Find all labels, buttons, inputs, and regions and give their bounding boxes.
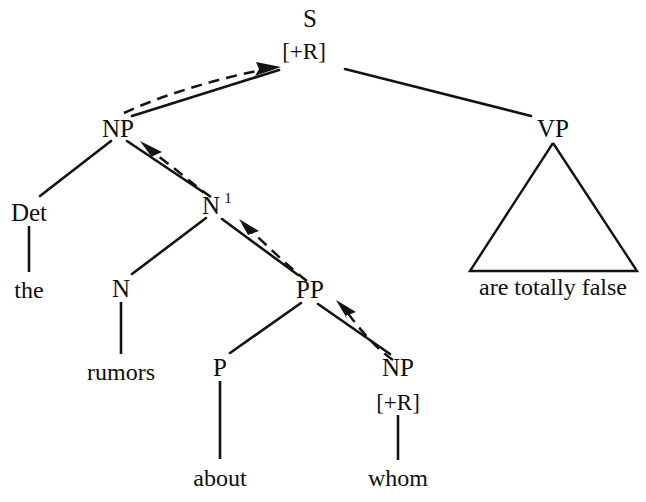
vp-triangle bbox=[470, 143, 637, 271]
node-feature-s: [+R] bbox=[282, 39, 326, 64]
node-label-np-object: NP bbox=[382, 354, 414, 381]
terminal-vp-phrase: are totally false bbox=[479, 274, 627, 300]
syntax-tree-diagram: S [+R] NP VP Det N 1 N PP P NP [+R] the … bbox=[0, 0, 646, 502]
node-label-np-subject: NP bbox=[102, 115, 134, 142]
terminal-the: the bbox=[14, 277, 43, 303]
branch-np-subject-to-n-bar bbox=[127, 141, 203, 192]
tree-canvas: S [+R] NP VP Det N 1 N PP P NP [+R] the … bbox=[0, 0, 646, 502]
node-label-det: Det bbox=[11, 199, 47, 226]
node-label-n: N bbox=[112, 275, 130, 302]
node-feature-np-object: [+R] bbox=[376, 390, 420, 415]
branch-pp-to-p bbox=[230, 303, 301, 353]
node-label-s: S bbox=[303, 5, 317, 32]
node-labels: S [+R] NP VP Det N 1 N PP P NP [+R] bbox=[11, 5, 569, 415]
movement-arrow-n-bar-to-np-subject bbox=[140, 141, 211, 197]
branch-s-to-vp bbox=[345, 69, 531, 116]
movement-arrow-np-subject-to-s bbox=[124, 62, 281, 113]
node-label-p: P bbox=[213, 354, 227, 381]
branch-n-bar-to-n bbox=[132, 218, 206, 274]
node-label-n-bar: N bbox=[202, 192, 220, 219]
branch-n-bar-to-pp bbox=[222, 219, 298, 275]
terminal-rumors: rumors bbox=[87, 359, 155, 385]
movement-arrow-pp-to-n-bar bbox=[239, 219, 307, 281]
terminal-about: about bbox=[193, 465, 247, 491]
node-label-vp: VP bbox=[537, 115, 569, 142]
vp-triangle-group bbox=[470, 143, 637, 271]
node-label-pp: PP bbox=[296, 276, 324, 303]
terminal-whom: whom bbox=[368, 465, 428, 491]
branch-s-to-np-subject bbox=[132, 70, 279, 116]
node-label-n-bar-superscript: 1 bbox=[224, 190, 232, 206]
branch-np-subject-to-det bbox=[40, 141, 111, 196]
